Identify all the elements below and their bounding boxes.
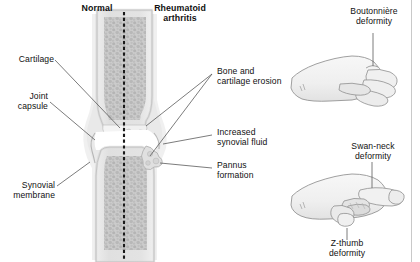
hand-boutonniere <box>291 33 397 106</box>
label-boutonniere-deformity: Boutonnière deformity <box>334 6 414 27</box>
joint-cross-section <box>83 10 166 262</box>
label-synovial-membrane: Synovial membrane <box>0 180 55 201</box>
rheumatoid-arthritis-figure: Normal Rheumatoid arthritis Cartilage Jo… <box>0 0 420 262</box>
header-rheumatoid-arthritis: Rheumatoid arthritis <box>140 3 220 24</box>
label-z-thumb-deformity: Z-thumb deformity <box>309 238 385 259</box>
leader-synovial-membrane <box>57 162 90 186</box>
hand-swanneck-zthumb <box>291 162 404 240</box>
illustration-canvas <box>0 0 420 262</box>
label-swan-neck-deformity: Swan-neck deformity <box>334 141 412 162</box>
upper-bone <box>97 10 152 128</box>
lower-bone-trabeculae <box>104 156 147 250</box>
leader-increased-synovial-fluid <box>163 135 212 144</box>
label-pannus-formation: Pannus formation <box>217 160 287 181</box>
label-bone-cartilage-erosion: Bone and cartilage erosion <box>217 66 297 87</box>
header-normal: Normal <box>62 3 132 13</box>
leader-pannus-formation <box>160 163 212 168</box>
label-cartilage: Cartilage <box>2 54 54 64</box>
label-increased-synovial-fluid: Increased synovial fluid <box>217 127 291 148</box>
panel-border <box>411 0 412 262</box>
label-joint-capsule: Joint capsule <box>2 91 48 112</box>
